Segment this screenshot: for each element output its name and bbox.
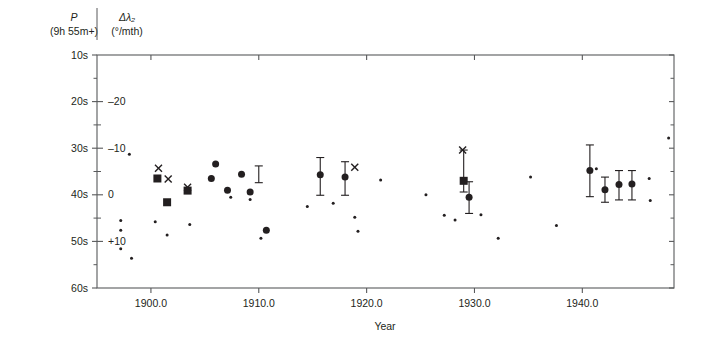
data-point-large (208, 175, 215, 182)
axis-header-block: P (9h 55m+) Δλ₂ (°/mth) (50, 8, 143, 40)
data-point-small (128, 153, 131, 156)
data-point-large (238, 171, 245, 178)
left-tick-label-5: 60s (71, 282, 88, 294)
data-point-small (529, 176, 532, 179)
x-tick-label-0: 1900.0 (135, 297, 167, 309)
data-point-small (454, 218, 457, 221)
data-point-cross (155, 165, 162, 172)
data-point-large (586, 167, 593, 174)
data-point-small (353, 216, 356, 219)
inner-axis-ticks: –20–100+10 (97, 95, 126, 247)
data-point-large (247, 189, 254, 196)
left-tick-label-3: 40s (71, 188, 88, 200)
data-point-small (424, 193, 427, 196)
period-vs-year-scatter-chart: P (9h 55m+) Δλ₂ (°/mth) 10s20s30s40s50s6… (0, 0, 710, 339)
data-point-large (615, 181, 622, 188)
inner-tick-label-2: 0 (108, 188, 114, 200)
data-point-small (119, 247, 122, 250)
data-point-large (263, 227, 270, 234)
x-tick-label-1: 1910.0 (243, 297, 275, 309)
left-tick-label-0: 10s (71, 49, 88, 61)
data-point-small (479, 213, 482, 216)
data-point-cross (165, 175, 172, 182)
data-point-large (601, 186, 608, 193)
data-point-large (212, 161, 219, 168)
left-tick-label-1: 20s (71, 95, 88, 107)
data-point-small (356, 230, 359, 233)
data-point-small (259, 237, 262, 240)
left-axis-title-line1: P (70, 11, 77, 23)
inner-axis-title-line2: (°/mth) (111, 25, 143, 37)
data-point-large (224, 187, 231, 194)
data-point-small (379, 178, 382, 181)
x-tick-label-3: 1930.0 (458, 297, 490, 309)
x-tick-label-2: 1920.0 (351, 297, 383, 309)
inner-tick-label-3: +10 (108, 235, 126, 247)
left-tick-label-2: 30s (71, 142, 88, 154)
data-point-square (460, 177, 468, 185)
left-tick-label-4: 50s (71, 235, 88, 247)
data-point-small (667, 136, 670, 139)
data-point-cross (351, 164, 358, 171)
data-point-small (648, 177, 651, 180)
data-point-small (249, 198, 252, 201)
data-point-small (154, 220, 157, 223)
data-point-small (555, 224, 558, 227)
error-bar (460, 150, 468, 192)
data-point-small (649, 199, 652, 202)
data-point-small (188, 223, 191, 226)
data-point-small (443, 214, 446, 217)
data-point-small (306, 205, 309, 208)
data-point-large (342, 174, 349, 181)
data-point-small (595, 167, 598, 170)
data-point-small (229, 196, 232, 199)
data-point-small (119, 219, 122, 222)
x-tick-label-4: 1940.0 (566, 297, 598, 309)
data-point-small (497, 237, 500, 240)
data-point-small (130, 257, 133, 260)
data-point-large (628, 181, 635, 188)
x-axis-title: Year (374, 320, 396, 332)
left-axis-title-line2: (9h 55m+) (50, 25, 98, 37)
error-bar (255, 166, 263, 183)
inner-axis-title-line1: Δλ₂ (118, 11, 135, 23)
inner-tick-label-1: –10 (108, 142, 126, 154)
data-point-square (153, 174, 161, 182)
inner-tick-label-0: –20 (108, 95, 126, 107)
bottom-axis-ticks: 1900.01910.01920.01930.01940.0 (135, 55, 599, 309)
data-point-small (119, 229, 122, 232)
data-point-small (332, 202, 335, 205)
figure-panel: P (9h 55m+) Δλ₂ (°/mth) 10s20s30s40s50s6… (0, 0, 710, 339)
data-point-large (317, 171, 324, 178)
data-point-large (466, 194, 473, 201)
data-point-square (163, 198, 171, 206)
data-point-small (166, 233, 169, 236)
right-axis-ticks (669, 55, 674, 288)
left-axis-ticks: 10s20s30s40s50s60s (71, 49, 97, 294)
data-markers-layer (119, 136, 670, 259)
